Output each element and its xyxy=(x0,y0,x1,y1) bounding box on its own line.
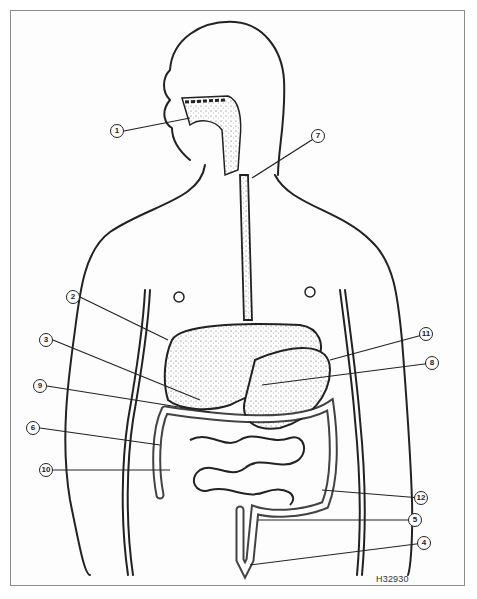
large-intestine xyxy=(157,405,334,570)
figure-id-label: H32930 xyxy=(376,574,409,584)
callout-1-mouth: 1 xyxy=(110,124,124,138)
callout-6: 6 xyxy=(26,421,40,435)
callout-11: 11 xyxy=(419,327,433,341)
callout-12: 12 xyxy=(414,491,428,505)
esophagus xyxy=(240,175,252,320)
callout-2-liver: 2 xyxy=(66,290,80,304)
callout-8: 8 xyxy=(425,356,439,370)
callout-5: 5 xyxy=(408,513,422,527)
oral-cavity xyxy=(182,96,241,175)
callout-10: 10 xyxy=(39,463,53,477)
callout-4: 4 xyxy=(417,536,431,550)
callout-9: 9 xyxy=(33,379,47,393)
callout-7-esophagus: 7 xyxy=(311,129,325,143)
small-intestine xyxy=(190,436,304,505)
callout-3: 3 xyxy=(39,333,53,347)
